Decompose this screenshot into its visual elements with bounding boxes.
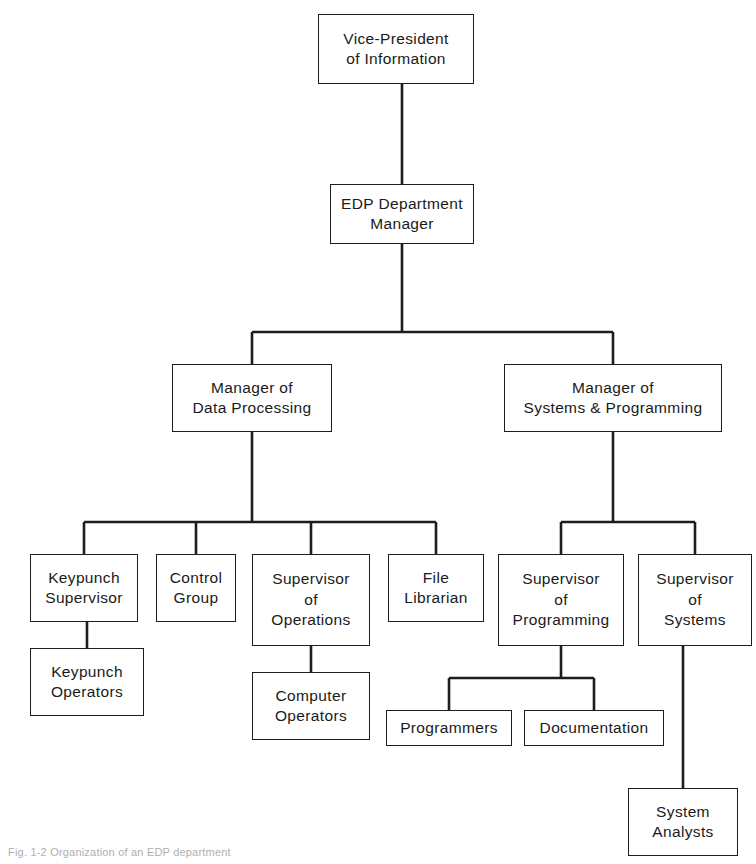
org-node-label: Supervisor	[656, 569, 734, 589]
org-node-label: System	[656, 802, 710, 822]
org-node-label: of Information	[346, 49, 446, 69]
org-node-control: ControlGroup	[156, 554, 236, 622]
org-node-label: Systems	[664, 610, 726, 630]
org-node-label: of	[554, 590, 568, 610]
org-node-sup_sys: SupervisorofSystems	[638, 554, 752, 646]
org-node-mgr_sp: Manager ofSystems & Programming	[504, 364, 722, 432]
org-node-vp: Vice-Presidentof Information	[318, 14, 474, 84]
figure-caption: Fig. 1-2 Organization of an EDP departme…	[8, 846, 231, 858]
org-node-keypunch_op: KeypunchOperators	[30, 648, 144, 716]
org-node-label: EDP Department	[341, 194, 463, 214]
org-node-label: Group	[174, 588, 219, 608]
org-node-label: Supervisor	[272, 569, 350, 589]
org-node-label: Vice-President	[343, 29, 448, 49]
org-node-label: Keypunch	[51, 662, 123, 682]
org-node-file_lib: FileLibrarian	[388, 554, 484, 622]
org-node-label: Control	[170, 568, 222, 588]
org-node-label: Analysts	[652, 822, 713, 842]
org-node-label: Systems & Programming	[524, 398, 703, 418]
org-node-sup_ops: SupervisorofOperations	[252, 554, 370, 646]
org-node-keypunch_sup: KeypunchSupervisor	[30, 554, 138, 622]
org-node-label: Documentation	[540, 718, 649, 738]
org-node-label: Operations	[271, 610, 350, 630]
org-node-label: Operators	[51, 682, 123, 702]
org-node-label: Keypunch	[48, 568, 120, 588]
org-node-mgr_dp: Manager ofData Processing	[172, 364, 332, 432]
org-node-programmers: Programmers	[386, 710, 512, 746]
org-node-label: Manager of	[211, 378, 293, 398]
org-node-label: File	[423, 568, 449, 588]
org-node-label: of	[304, 590, 318, 610]
org-node-label: Programmers	[400, 718, 498, 738]
org-node-label: Operators	[275, 706, 347, 726]
org-node-label: Supervisor	[522, 569, 600, 589]
org-node-sup_prog: SupervisorofProgramming	[498, 554, 624, 646]
org-node-sys_analysts: SystemAnalysts	[628, 788, 738, 856]
org-node-label: Supervisor	[45, 588, 123, 608]
org-node-edp: EDP DepartmentManager	[330, 184, 474, 244]
org-node-computer_op: ComputerOperators	[252, 672, 370, 740]
org-node-label: Data Processing	[193, 398, 312, 418]
org-node-label: Programming	[513, 610, 610, 630]
org-node-label: Manager of	[572, 378, 654, 398]
org-node-label: Librarian	[404, 588, 467, 608]
org-chart: Vice-Presidentof InformationEDP Departme…	[0, 0, 756, 864]
org-node-label: Manager	[370, 214, 434, 234]
org-node-label: Computer	[276, 686, 347, 706]
org-node-documentation: Documentation	[524, 710, 664, 746]
org-node-label: of	[688, 590, 702, 610]
